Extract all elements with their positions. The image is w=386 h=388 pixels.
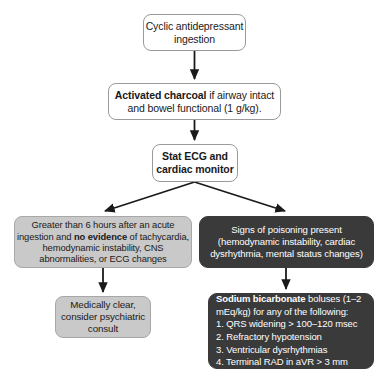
node-activated-charcoal[interactable]: Activated charcoal if airway intact and … (108, 83, 281, 120)
node-stat-ecg-cardiac-monitor[interactable]: Stat ECG and cardiac monitor (152, 144, 238, 182)
node-no-evidence-criteria[interactable]: Greater than 6 hours after an acute inge… (14, 216, 192, 268)
edge-ecg-to-no-evidence (105, 182, 195, 211)
node-charcoal-label: Activated charcoal if airway intact and … (109, 89, 280, 115)
node-bicarbonate-list-item: 4. Terminal RAD in aVR > 3 mm (216, 356, 366, 369)
node-no-evidence-bold: no evidence (74, 231, 127, 242)
node-medically-clear-label: Medically clear, consider psychiatric co… (56, 299, 150, 335)
node-root-label: Cyclic antidepressant ingestion (144, 20, 245, 46)
node-ecg-label: Stat ECG and cardiac monitor (153, 150, 237, 176)
node-bicarbonate-list-item: 2. Refractory hypotension (216, 331, 366, 344)
edge-ecg-to-poisoning (195, 182, 286, 211)
node-charcoal-bold-lead: Activated charcoal (115, 89, 207, 101)
node-medically-clear[interactable]: Medically clear, consider psychiatric co… (55, 296, 151, 338)
node-poisoning-label: Signs of poisoning present (hemodynamic … (200, 224, 373, 259)
node-signs-of-poisoning[interactable]: Signs of poisoning present (hemodynamic … (199, 216, 374, 268)
node-cyclic-antidepressant-ingestion[interactable]: Cyclic antidepressant ingestion (143, 14, 246, 51)
node-no-evidence-label: Greater than 6 hours after an acute inge… (15, 219, 191, 265)
node-bicarbonate-bold-lead: Sodium bicarbonate (216, 293, 306, 304)
node-bicarbonate-list-item: 1. QRS widening > 100–120 msec (216, 318, 366, 331)
node-bicarbonate-content: Sodium bicarbonate boluses (1–2 mEq/kg) … (216, 293, 366, 369)
flowchart-canvas: Cyclic antidepressant ingestion Activate… (0, 0, 386, 388)
node-bicarbonate-header: Sodium bicarbonate boluses (1–2 mEq/kg) … (216, 293, 366, 318)
node-bicarbonate-list-item: 3. Ventricular dysrhythmias (216, 344, 366, 357)
node-sodium-bicarbonate[interactable]: Sodium bicarbonate boluses (1–2 mEq/kg) … (208, 293, 374, 369)
